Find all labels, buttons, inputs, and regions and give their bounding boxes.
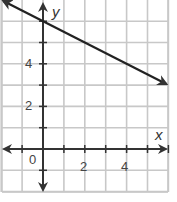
x-axis-label: x — [155, 126, 163, 143]
origin-label: 0 — [29, 152, 36, 167]
y-axis-label: y — [52, 3, 60, 20]
y-tick-label-2: 2 — [25, 98, 32, 113]
y-tick-label-4: 4 — [25, 56, 32, 71]
x-tick-label-2: 2 — [80, 159, 87, 174]
x-tick-label-4: 4 — [121, 159, 128, 174]
